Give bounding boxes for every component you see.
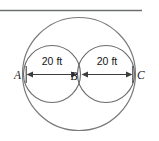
arrow-head-left-ab-icon <box>27 72 34 78</box>
point-label-a: A <box>13 69 22 81</box>
geometry-figure: A B C 20 ft 20 ft <box>0 0 159 141</box>
figure-canvas: A B C 20 ft 20 ft <box>0 0 159 141</box>
arrow-head-right-bc-icon <box>126 72 133 78</box>
dimension-label-ab: 20 ft <box>42 55 63 67</box>
point-label-b: B <box>70 70 77 82</box>
arrow-head-left-bc-icon <box>82 72 89 78</box>
dimension-label-bc: 20 ft <box>97 55 118 67</box>
point-label-c: C <box>137 69 145 81</box>
